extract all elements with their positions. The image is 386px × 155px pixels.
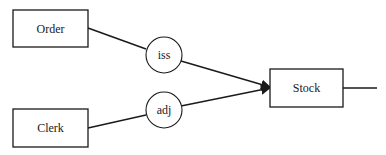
edge-order-iss (88, 28, 146, 49)
relation-iss[interactable]: iss (146, 37, 182, 73)
diagram-canvas: Order Clerk Stock iss adj (0, 0, 386, 155)
entity-order-label: Order (37, 22, 65, 36)
edge-clerk-adj (88, 115, 146, 128)
entity-stock-label: Stock (293, 81, 320, 95)
entity-stock[interactable]: Stock (270, 69, 343, 107)
entity-clerk-label: Clerk (37, 121, 64, 135)
edge-adj-stock (181, 88, 270, 106)
entity-order[interactable]: Order (13, 10, 88, 47)
entity-clerk[interactable]: Clerk (13, 109, 88, 147)
edge-iss-stock (181, 61, 270, 87)
relation-iss-label: iss (158, 48, 171, 62)
relation-adj[interactable]: adj (146, 92, 182, 128)
relation-adj-label: adj (157, 103, 172, 117)
